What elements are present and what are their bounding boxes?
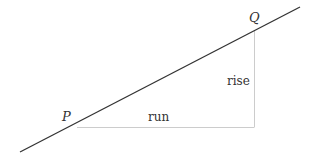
point-q-label: Q (249, 10, 260, 25)
point-p-label: P (61, 109, 71, 124)
secant-line (20, 7, 300, 152)
run-label: run (148, 110, 169, 124)
slope-diagram: P Q run rise (0, 0, 318, 159)
rise-label: rise (227, 74, 250, 88)
